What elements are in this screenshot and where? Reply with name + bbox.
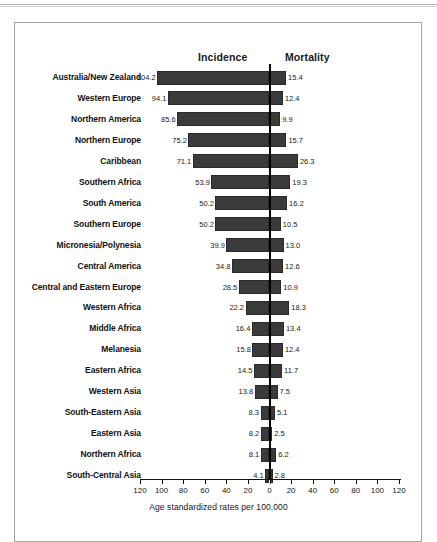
bar-mortality xyxy=(270,196,287,210)
x-axis-tick xyxy=(183,479,184,484)
value-label-mortality: 7.5 xyxy=(280,381,290,402)
x-axis-tick-label: 60 xyxy=(330,486,339,495)
value-label-incidence: 14.5 xyxy=(238,360,253,381)
value-label-incidence: 22.2 xyxy=(229,297,244,318)
bar-incidence xyxy=(188,133,269,147)
value-label-mortality: 12.4 xyxy=(285,88,300,109)
x-axis-tick xyxy=(205,479,206,484)
value-label-incidence: 13.8 xyxy=(239,381,254,402)
bar-incidence xyxy=(177,112,269,126)
x-axis-tick xyxy=(291,479,292,484)
chart-row: Southern Europe50.210.5 xyxy=(0,214,437,235)
bar-mortality xyxy=(270,301,290,315)
x-axis-tick-label: 40 xyxy=(308,486,317,495)
x-axis-tick-label: 120 xyxy=(133,486,146,495)
x-axis-tick-label: 100 xyxy=(371,486,384,495)
row-label-region: Middle Africa xyxy=(0,318,141,339)
x-axis-tick xyxy=(270,479,271,484)
bar-mortality xyxy=(270,217,281,231)
row-label-region: South-Eastern Asia xyxy=(0,402,141,423)
x-axis-tick-label: 20 xyxy=(287,486,296,495)
bar-incidence xyxy=(193,154,270,168)
bar-incidence xyxy=(239,280,270,294)
value-label-mortality: 15.4 xyxy=(288,67,303,88)
value-label-incidence: 4.1 xyxy=(253,465,263,486)
chart-row: South-Eastern Asia8.35.1 xyxy=(0,402,437,423)
value-label-mortality: 15.7 xyxy=(288,130,303,151)
value-label-mortality: 18.3 xyxy=(291,297,306,318)
bar-incidence xyxy=(255,385,270,399)
chart-row: Melanesia15.812.4 xyxy=(0,339,437,360)
value-label-mortality: 9.9 xyxy=(282,109,292,130)
row-label-region: Western Africa xyxy=(0,297,141,318)
value-label-mortality: 13.4 xyxy=(286,318,301,339)
bar-mortality xyxy=(270,238,284,252)
value-label-incidence: 104.2 xyxy=(137,67,156,88)
value-label-mortality: 13.0 xyxy=(286,235,301,256)
chart-row: Middle Africa16.413.4 xyxy=(0,318,437,339)
row-label-region: Northern Europe xyxy=(0,130,141,151)
chart-row: Northern America85.69.9 xyxy=(0,109,437,130)
x-axis-tick xyxy=(162,479,163,484)
value-label-incidence: 16.4 xyxy=(236,318,251,339)
row-label-region: Southern Europe xyxy=(0,214,141,235)
x-axis-tick-label: 100 xyxy=(155,486,168,495)
value-label-mortality: 11.7 xyxy=(284,360,298,381)
value-label-incidence: 71.1 xyxy=(177,151,192,172)
value-label-incidence: 28.5 xyxy=(223,277,238,298)
row-label-region: Southern Africa xyxy=(0,172,141,193)
value-label-mortality: 6.2 xyxy=(278,444,288,465)
value-label-mortality: 12.6 xyxy=(285,256,300,277)
value-label-incidence: 39.9 xyxy=(210,235,225,256)
chart-row: Central America34.812.6 xyxy=(0,256,437,277)
bar-incidence xyxy=(168,91,270,105)
chart-row: Western Africa22.218.3 xyxy=(0,297,437,318)
x-axis-tick xyxy=(334,479,335,484)
x-axis-tick-label: 80 xyxy=(179,486,188,495)
chart-row: Western Asia13.87.5 xyxy=(0,381,437,402)
bar-incidence xyxy=(215,217,269,231)
bar-incidence xyxy=(157,71,269,85)
value-label-incidence: 8.1 xyxy=(249,444,259,465)
row-label-region: Northern Africa xyxy=(0,444,141,465)
row-label-region: Eastern Africa xyxy=(0,360,141,381)
bar-mortality xyxy=(270,154,298,168)
row-label-region: Central and Eastern Europe xyxy=(0,277,141,298)
bar-incidence xyxy=(232,259,270,273)
bar-mortality xyxy=(270,259,284,273)
x-axis-tick xyxy=(140,479,141,484)
bar-mortality xyxy=(270,343,283,357)
x-axis-tick-label: 0 xyxy=(267,486,271,495)
chart-row: Eastern Africa14.511.7 xyxy=(0,360,437,381)
x-axis-tick xyxy=(313,479,314,484)
column-header-mortality: Mortality xyxy=(285,51,330,63)
value-label-incidence: 50.2 xyxy=(199,214,214,235)
chart-row: Eastern Asia8.22.5 xyxy=(0,423,437,444)
bar-mortality xyxy=(270,175,291,189)
value-label-incidence: 75.2 xyxy=(172,130,187,151)
bar-incidence xyxy=(211,175,269,189)
column-header-incidence: Incidence xyxy=(198,51,247,63)
x-axis-tick-label: 20 xyxy=(243,486,252,495)
bar-mortality xyxy=(270,364,283,378)
bar-incidence xyxy=(252,322,270,336)
chart-row: Northern Africa8.16.2 xyxy=(0,444,437,465)
value-label-mortality: 19.3 xyxy=(292,172,307,193)
bar-incidence xyxy=(246,301,270,315)
value-label-incidence: 8.2 xyxy=(249,423,259,444)
row-label-region: South-Central Asia xyxy=(0,465,141,486)
bar-mortality xyxy=(270,322,284,336)
bar-mortality xyxy=(270,71,287,85)
row-label-region: Western Asia xyxy=(0,381,141,402)
chart-row: South-Central Asia4.12.8 xyxy=(0,465,437,486)
x-axis-tick xyxy=(248,479,249,484)
chart-row: Western Europe94.112.4 xyxy=(0,88,437,109)
value-label-mortality: 5.1 xyxy=(277,402,287,423)
x-axis-line xyxy=(140,479,401,480)
bar-incidence xyxy=(215,196,269,210)
value-label-mortality: 2.8 xyxy=(275,465,285,486)
chart-row: Central and Eastern Europe28.510.9 xyxy=(0,277,437,298)
chart-row: Northern Europe75.215.7 xyxy=(0,130,437,151)
